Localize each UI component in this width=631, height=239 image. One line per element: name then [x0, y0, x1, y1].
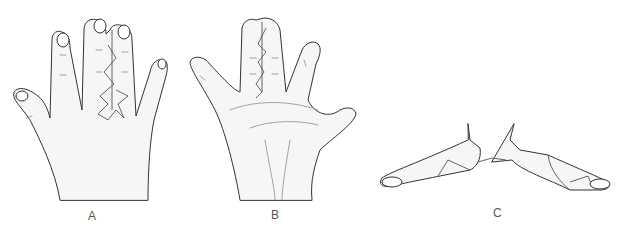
nail-little	[158, 59, 166, 69]
panel-label-c: C	[493, 206, 502, 220]
panel-b-hand	[190, 18, 356, 200]
nail-ring	[118, 25, 130, 39]
syndactyly-illustration	[0, 0, 631, 239]
panel-label-b: B	[271, 208, 279, 222]
nail-left	[382, 177, 402, 187]
nail-index	[57, 33, 69, 47]
nail-middle	[94, 19, 106, 33]
nail-thumb	[16, 91, 28, 101]
nail-right	[590, 179, 610, 189]
panel-label-a: A	[88, 209, 96, 223]
panel-a-hand	[14, 19, 168, 200]
panel-c-fingers	[380, 124, 610, 190]
